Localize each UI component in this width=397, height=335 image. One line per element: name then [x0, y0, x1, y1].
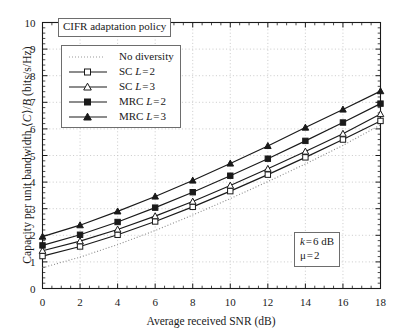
legend-item-no-diversity: No diversity [67, 49, 174, 64]
x-axis-label: Average received SNR (dB) [42, 315, 380, 327]
svg-text:14: 14 [300, 296, 312, 308]
legend-item-mrc-l2: MRC L = 2 [67, 94, 174, 109]
legend-label: MRC L = 3 [113, 110, 166, 124]
legend-key-dotted-line [67, 50, 113, 64]
legend-key-filled-triangle [67, 110, 113, 124]
svg-text:12: 12 [262, 296, 273, 308]
legend-item-sc-l2: SC L = 2 [67, 64, 174, 79]
svg-text:4: 4 [115, 296, 121, 308]
chart-figure: 024681012141618012345678910 Capacity per… [0, 0, 397, 335]
chart-plot-area: 024681012141618012345678910 [0, 0, 397, 335]
legend-label: No diversity [113, 50, 174, 64]
legend-key-open-square [67, 65, 113, 79]
legend-item-mrc-l3: MRC L = 3 [67, 109, 174, 124]
legend-key-open-triangle [67, 80, 113, 94]
svg-text:16: 16 [337, 296, 349, 308]
svg-text:2: 2 [77, 296, 83, 308]
annotation-mu-line: μ = 2 [300, 249, 334, 263]
legend-label: SC L = 2 [113, 65, 155, 79]
legend-label: SC L = 3 [113, 80, 155, 94]
chart-legend: No diversity SC L = 2 SC L = 3 [61, 45, 181, 128]
svg-text:8: 8 [190, 296, 196, 308]
annotation-k-line: k = 6 dB [300, 235, 334, 249]
svg-text:0: 0 [40, 296, 46, 308]
chart-title: CIFR adaptation policy [58, 18, 171, 37]
legend-label: MRC L = 2 [113, 95, 166, 109]
svg-text:18: 18 [375, 296, 387, 308]
svg-text:6: 6 [152, 296, 158, 308]
svg-text:10: 10 [225, 296, 237, 308]
parameter-annotation: k = 6 dB μ = 2 [294, 232, 340, 267]
y-axis-label: Capacity per unit bandwidth ⟨C⟩/B (bits/… [20, 20, 34, 290]
legend-key-filled-square [67, 95, 113, 109]
legend-item-sc-l3: SC L = 3 [67, 79, 174, 94]
